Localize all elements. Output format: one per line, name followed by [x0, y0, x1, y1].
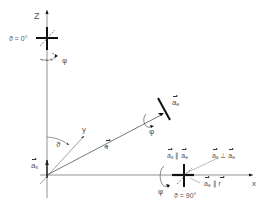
- coordinate-diagram: [0, 0, 267, 205]
- radius-label: r: [105, 143, 108, 151]
- radial-relation-label: ae ∥ r: [204, 180, 221, 188]
- perpendicular-relation-label: as ⊥ ae: [212, 152, 235, 160]
- origin-theta-label: ϑ: [56, 141, 60, 149]
- parallel-relation-label: as ∥ ae: [167, 152, 188, 160]
- top-theta-label: ϑ = 0°: [9, 35, 28, 42]
- general-antenna-icon: [158, 98, 170, 120]
- x-axis-label: x: [252, 180, 256, 188]
- y-axis-label: y: [82, 126, 86, 134]
- equator-theta-label: ϑ = 90°: [174, 192, 196, 199]
- general-phi-label: φ: [149, 128, 154, 136]
- top-pole-antenna-icon: [36, 27, 58, 50]
- z-axis-label: Z: [34, 12, 40, 21]
- general-ae-label: ae: [172, 99, 179, 107]
- origin-as-label: as: [31, 162, 38, 170]
- equator-rotation-icon: [160, 166, 168, 187]
- top-phi-label: φ: [62, 57, 67, 65]
- equator-antenna-icon: [172, 164, 194, 187]
- top-rotation-icon: [40, 53, 56, 61]
- equator-phi-label: φ: [158, 188, 163, 196]
